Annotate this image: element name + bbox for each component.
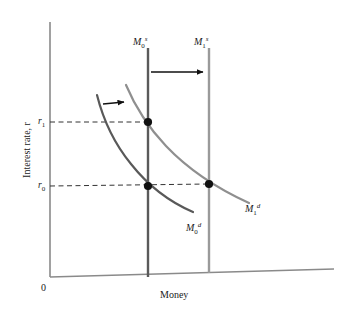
y-tick-label-r1: r1 bbox=[38, 117, 45, 129]
demand-curve-0 bbox=[97, 95, 193, 212]
supply-curve-0-label: M0s bbox=[133, 36, 148, 50]
y-tick-label-r0: r0 bbox=[38, 181, 45, 193]
chart-canvas bbox=[0, 0, 341, 313]
equilibrium-point-r0-initial bbox=[144, 182, 152, 190]
equilibrium-point-r1 bbox=[144, 118, 152, 126]
supply-curve-1-label: M1s bbox=[194, 36, 209, 50]
x-axis-title: Money bbox=[160, 290, 188, 300]
demand-curve-1-label: M1d bbox=[245, 203, 260, 217]
y-axis-title: Interest rate, r bbox=[22, 95, 32, 205]
origin-label: 0 bbox=[41, 283, 46, 293]
x-axis bbox=[50, 269, 334, 277]
money-market-figure: M0s M1s M0d M1d r1 r0 Money Interest rat… bbox=[0, 0, 341, 313]
guide-line-r0 bbox=[50, 184, 209, 186]
equilibrium-point-r0-final bbox=[205, 180, 213, 188]
demand-curve-0-label: M0d bbox=[186, 222, 201, 236]
demand-shift-arrow bbox=[103, 102, 124, 104]
